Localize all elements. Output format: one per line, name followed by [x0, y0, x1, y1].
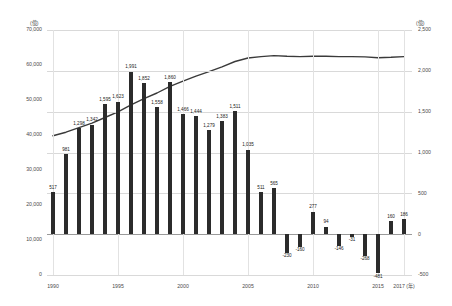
bar: [389, 221, 393, 234]
bar-value-label: -160: [295, 248, 304, 253]
bar-value-label: 1,511: [229, 105, 240, 110]
left-axis-tick-label: 20,000: [0, 202, 42, 207]
bar-value-label: 1,298: [73, 122, 85, 127]
left-axis-tick-label: 30,000: [0, 167, 42, 172]
bar-value-label: 277: [309, 205, 317, 210]
bar-value-label: 1,342: [86, 118, 98, 123]
bar-value-label: 1,558: [151, 101, 163, 106]
bar-value-label: 981: [62, 148, 70, 153]
right-axis-tick-label: -500: [418, 272, 428, 277]
bar: [259, 192, 263, 234]
gridline: [47, 193, 412, 194]
bar: [194, 116, 198, 234]
bar-value-label: 511: [257, 186, 264, 191]
left-axis-tick-label: 0: [0, 272, 42, 277]
plot-area: 5179811,2981,3421,5951,6231,9911,8521,55…: [47, 30, 412, 275]
x-axis-tick-label: 1990: [47, 284, 59, 289]
vertical-gridline: [404, 30, 405, 275]
bar-value-label: 1,279: [203, 124, 215, 129]
left-axis-tick-label: 70,000: [0, 27, 42, 32]
bar: [155, 107, 159, 234]
bar: [77, 128, 81, 234]
bar: [129, 72, 133, 235]
gridline: [47, 112, 412, 113]
bar-value-label: 1,595: [99, 98, 111, 103]
bar-value-label: 1,444: [190, 110, 202, 115]
bar: [168, 82, 172, 234]
bar-value-label: 1,852: [138, 77, 150, 82]
gridline: [47, 30, 412, 31]
bar-value-label: -230: [282, 254, 291, 259]
bar-value-label: -146: [334, 247, 343, 252]
bar: [311, 212, 315, 235]
bar-value-label: 1,623: [112, 95, 124, 100]
bar-value-label: 186: [400, 213, 408, 218]
x-axis-tick-label: 2005: [242, 284, 254, 289]
bar-value-label: -31: [349, 238, 356, 243]
bar-value-label: 94: [323, 220, 328, 225]
left-axis-tick-label: 40,000: [0, 132, 42, 137]
vertical-gridline: [313, 30, 314, 275]
right-axis-tick-label: 1,000: [418, 150, 431, 155]
gridline: [47, 275, 412, 276]
bar-value-label: 517: [49, 186, 57, 191]
bar-value-label: 1,860: [164, 76, 176, 81]
x-axis-tick-label: 2017 (年): [393, 284, 414, 289]
gridline: [47, 153, 412, 154]
zero-gridline: [47, 234, 412, 235]
bar: [376, 234, 380, 273]
bar: [337, 234, 341, 246]
bar: [64, 154, 68, 234]
bar: [116, 102, 120, 235]
bar-value-label: -481: [373, 275, 382, 280]
bar: [246, 150, 250, 235]
bar-value-label: 1,383: [216, 115, 228, 120]
x-axis-tick-label: 1995: [112, 284, 124, 289]
right-axis-tick-label: 2,000: [418, 68, 431, 73]
right-axis-tick-label: 1,500: [418, 109, 431, 114]
bar-value-label: 1,991: [125, 65, 137, 70]
bar: [285, 234, 289, 253]
bar: [324, 227, 328, 235]
bar: [220, 121, 224, 234]
x-axis-tick-label: 2015: [372, 284, 384, 289]
bar-value-label: 160: [387, 215, 395, 220]
x-axis-tick-label: 2000: [177, 284, 189, 289]
x-axis-tick-label: 2010: [307, 284, 319, 289]
chart-container: (億) (億) 5179811,2981,3421,5951,6231,9911…: [0, 0, 452, 306]
left-axis-tick-label: 50,000: [0, 97, 42, 102]
bar: [402, 219, 406, 234]
vertical-gridline: [53, 30, 54, 275]
right-axis-tick-label: 0: [418, 232, 421, 237]
bar: [298, 234, 302, 247]
bar-value-label: -268: [360, 257, 369, 262]
bar: [207, 130, 211, 235]
bar: [363, 234, 367, 256]
bar: [142, 83, 146, 234]
bar: [272, 188, 276, 234]
right-axis-tick-label: 500: [418, 191, 427, 196]
bar: [51, 192, 55, 234]
left-axis-tick-label: 60,000: [0, 62, 42, 67]
bar-value-label: 1,466: [177, 108, 189, 113]
bar-value-label: 1,035: [242, 143, 254, 148]
right-axis-tick-label: 2,500: [418, 27, 431, 32]
gridline: [47, 71, 412, 72]
bar: [103, 104, 107, 234]
bar-value-label: 565: [270, 182, 278, 187]
bar: [181, 114, 185, 234]
left-axis-tick-label: 10,000: [0, 237, 42, 242]
bar: [90, 125, 94, 235]
bar: [233, 111, 237, 234]
